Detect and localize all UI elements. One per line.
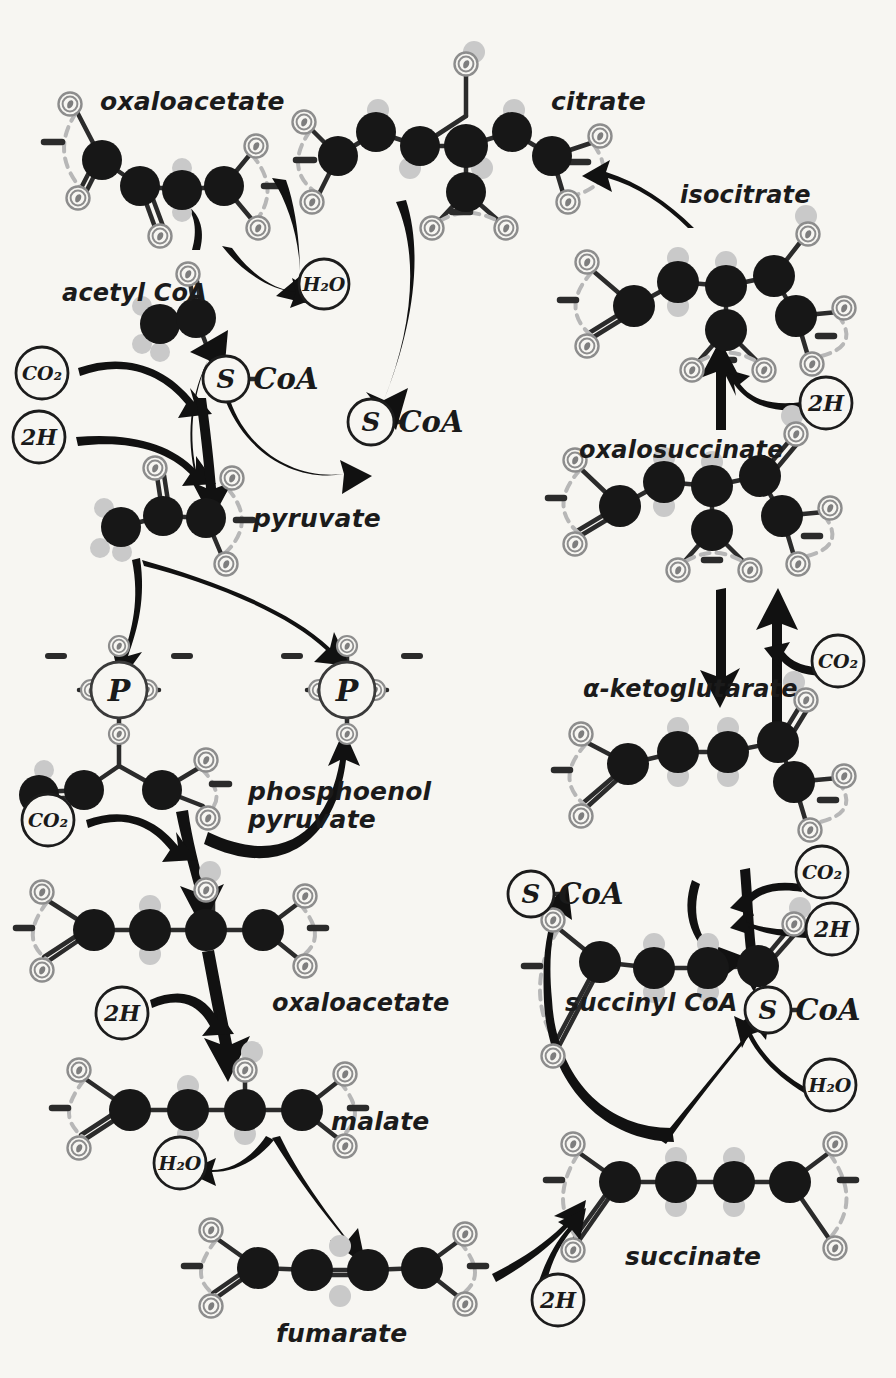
cofactor-h2o-succ: H₂O	[804, 1059, 856, 1111]
group-s-coa-free2-coa: CoA	[559, 877, 624, 911]
metabolite-label-pyruvate: pyruvate	[253, 505, 381, 533]
group-s-coa-succ: SCoA	[745, 987, 860, 1033]
cofactor-2h-oaa: 2H	[96, 987, 148, 1039]
cofactor-h2o-top: H₂O	[299, 259, 349, 309]
cofactor-2h-succinate: 2H	[532, 1274, 584, 1326]
cofactor-co2-pep-text: CO₂	[28, 809, 68, 831]
metabolite-label-isocitrate: isocitrate	[680, 182, 811, 209]
group-s-coa-acetyl-sulfur: S	[217, 364, 236, 394]
group-s-coa-acetyl: SCoA	[203, 356, 318, 402]
group-s-coa-succ-coa: CoA	[796, 993, 861, 1027]
krebs-cycle-diagram: H₂OCO₂2H2HCO₂CO₂CO₂2H2HH₂OH₂O2HPPSCoASCo…	[0, 0, 896, 1378]
cofactor-co2-succoa-text: CO₂	[802, 861, 842, 883]
group-s-coa-free-sulfur: S	[362, 407, 381, 437]
cofactor-2h-acetyl: 2H	[13, 411, 65, 463]
metabolite-label-acetyl-coa: acetyl CoA	[62, 280, 207, 307]
cofactor-2h-isocit: 2H	[800, 377, 852, 429]
group-s-coa-succ-sulfur: S	[759, 995, 778, 1025]
metabolite-label-citrate: citrate	[551, 88, 646, 116]
cofactor-2h-succoa: 2H	[806, 903, 858, 955]
cofactor-2h-isocit-text: 2H	[807, 390, 845, 416]
phosphate-p-right: P	[319, 662, 375, 718]
group-s-coa-free2-sulfur: S	[522, 879, 541, 909]
cofactor-co2-akg-text: CO₂	[818, 650, 858, 672]
cofactor-2h-succoa-text: 2H	[813, 916, 851, 942]
metabolite-label-succinate: succinate	[625, 1243, 761, 1271]
cofactor-2h-acetyl-text: 2H	[20, 424, 58, 450]
cofactor-co2-acetyl: CO₂	[16, 347, 68, 399]
metabolite-label-succinyl-coa: succinyl CoA	[565, 990, 737, 1017]
cofactor-h2o-fum-text: H₂O	[158, 1152, 202, 1174]
cofactor-h2o-succ-text: H₂O	[808, 1074, 852, 1096]
cofactor-2h-oaa-text: 2H	[103, 1000, 141, 1026]
phosphate-p-right-text: P	[335, 673, 360, 708]
phosphate-p-left-text: P	[107, 673, 132, 708]
metabolite-label-oxaloacetate-top: oxaloacetate	[100, 88, 285, 116]
cofactor-co2-pep: CO₂	[22, 794, 74, 846]
metabolite-label-oxalosuccinate: oxalosuccinate	[579, 437, 784, 464]
group-s-coa-acetyl-coa: CoA	[254, 362, 319, 396]
metabolite-label-malate: malate	[331, 1108, 429, 1136]
cofactor-co2-akg: CO₂	[812, 635, 864, 687]
metabolite-label-fumarate: fumarate	[276, 1320, 407, 1348]
cofactor-co2-succoa: CO₂	[796, 846, 848, 898]
group-s-coa-free-coa: CoA	[399, 405, 464, 439]
cofactor-h2o-top-text: H₂O	[302, 273, 346, 295]
group-s-coa-free: SCoA	[348, 399, 463, 445]
phosphate-p-left: P	[91, 662, 147, 718]
metabolite-label-alpha-ketoglutarate: α-ketoglutarate	[583, 676, 798, 703]
cofactor-co2-acetyl-text: CO₂	[22, 362, 62, 384]
cofactor-2h-succinate-text: 2H	[539, 1287, 577, 1313]
group-s-coa-free2: SCoA	[508, 871, 623, 917]
metabolite-label-phosphoenol-pyruvate: phosphoenol pyruvate	[248, 778, 431, 834]
metabolite-label-oxaloacetate-mid: oxaloacetate	[272, 990, 449, 1017]
cofactor-h2o-fum: H₂O	[154, 1137, 206, 1189]
